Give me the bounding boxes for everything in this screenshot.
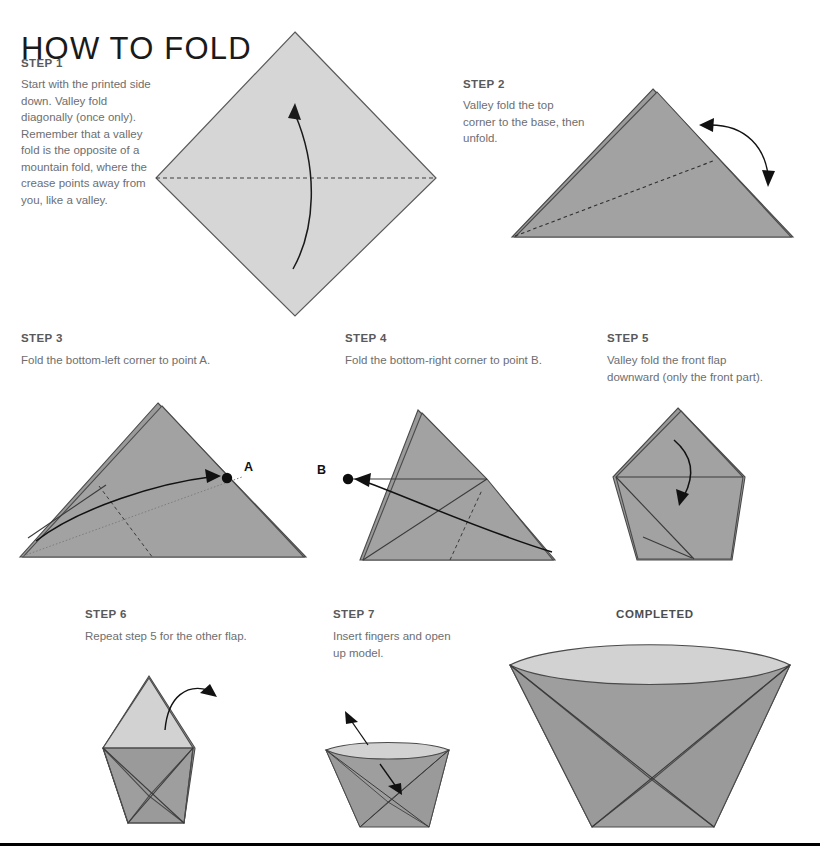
completed-diagram xyxy=(492,632,818,844)
step-6-diagram xyxy=(98,665,263,837)
completed-heading: COMPLETED xyxy=(616,608,694,620)
step-1-body: Start with the printed side down. Valley… xyxy=(21,76,153,208)
point-b-label: B xyxy=(317,463,326,477)
step-7-heading: STEP 7 xyxy=(333,608,375,620)
paper-triangle-front xyxy=(23,406,304,557)
open-arrow-up xyxy=(345,711,368,745)
step-3-heading: STEP 3 xyxy=(21,332,63,344)
step-3-body: Fold the bottom-left corner to point A. xyxy=(21,352,251,369)
paper-top-light xyxy=(103,678,193,748)
step-5-heading: STEP 5 xyxy=(607,332,649,344)
point-a-marker xyxy=(222,473,232,483)
step-2-heading: STEP 2 xyxy=(463,78,505,90)
step-4-heading: STEP 4 xyxy=(345,332,387,344)
step-2-diagram xyxy=(500,80,820,260)
step-1-diagram xyxy=(160,20,460,320)
how-to-fold-page: HOW TO FOLD STEP 1 Start with the printe… xyxy=(0,0,820,846)
step-7-body: Insert fingers and open up model. xyxy=(333,628,453,661)
paper-triangle-front xyxy=(515,92,791,237)
point-b-marker xyxy=(343,474,353,484)
step-4-diagram: B xyxy=(330,400,580,572)
step-6-heading: STEP 6 xyxy=(85,608,127,620)
step-6-body: Repeat step 5 for the other flap. xyxy=(85,628,315,645)
step-5-diagram xyxy=(612,405,762,570)
point-a-label: A xyxy=(244,460,253,474)
step-7-diagram xyxy=(312,690,512,842)
step-3-diagram: A xyxy=(10,395,310,570)
step-4-body: Fold the bottom-right corner to point B. xyxy=(345,352,575,369)
paper-shape-front xyxy=(616,411,743,559)
step-1-heading: STEP 1 xyxy=(21,57,63,69)
step-5-body: Valley fold the front flap downward (onl… xyxy=(607,352,777,385)
paper-diamond xyxy=(156,32,436,316)
